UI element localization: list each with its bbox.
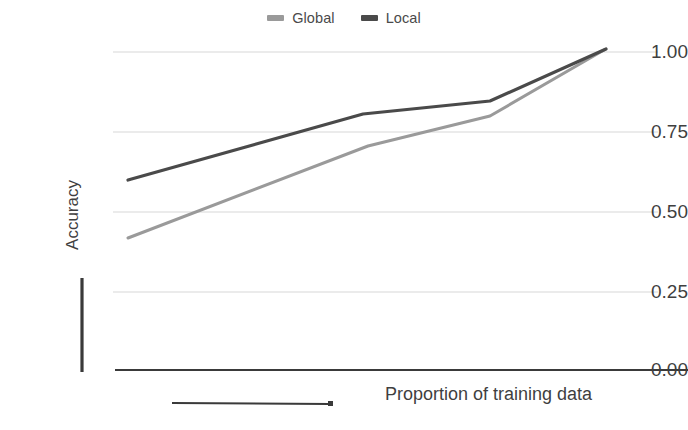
stray-rule-endpoint: [328, 401, 333, 406]
y-tick-label-0-75: 0.75: [614, 121, 688, 143]
y-tick-label-0-50: 0.50: [614, 201, 688, 223]
y-tick-label-0-25: 0.25: [614, 281, 688, 303]
series-line-local: [128, 49, 606, 180]
stray-rule: [172, 403, 330, 404]
y-axis-label: Accuracy: [63, 180, 83, 250]
y-tick-label-1-00: 1.00: [614, 41, 688, 63]
gridlines: [113, 52, 658, 292]
x-axis-label: Proportion of training data: [385, 384, 592, 405]
chart-container: Global Local 1.00 0.75 0.50 0.25 0.0: [0, 0, 688, 430]
y-tick-label-0-00: 0.00: [614, 359, 688, 381]
series-line-global: [128, 50, 604, 238]
chart-svg: [0, 0, 688, 430]
plot-area: 1.00 0.75 0.50 0.25 0.00 Accuracy Propor…: [0, 0, 688, 430]
